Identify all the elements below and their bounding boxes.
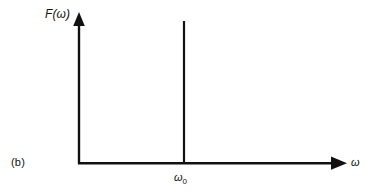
- panel-label: (b): [11, 157, 25, 168]
- omega-symbol: ω: [174, 171, 183, 183]
- x-tick-label-omega-zero: ω0: [174, 172, 187, 186]
- x-axis-label: ω: [351, 157, 360, 168]
- y-axis-label: F(ω): [45, 8, 70, 20]
- plot-canvas: [0, 0, 366, 193]
- y-axis-arrowhead-icon: [73, 12, 85, 26]
- figure-panel-b: (b) F(ω) ω ω0: [0, 0, 366, 193]
- omega-subscript: 0: [183, 177, 187, 186]
- x-axis-arrowhead-icon: [331, 157, 347, 170]
